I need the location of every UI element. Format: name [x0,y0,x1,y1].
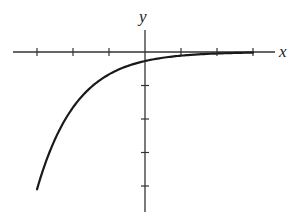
y-axis-label: y [137,7,147,26]
axes [13,30,275,212]
plot: x y [0,0,305,217]
x-axis-label: x [278,42,287,61]
